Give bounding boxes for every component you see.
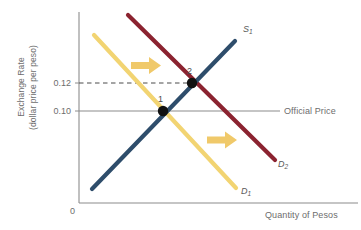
y-tick-label-010: 0.10 [43, 106, 71, 116]
equilibrium-point-2 [187, 78, 197, 88]
exchange-rate-supply-demand-chart: Exchange Rate (dollar price per peso) 0.… [0, 0, 361, 230]
y-axis-title-line2: (dollar price per peso) [28, 15, 38, 160]
supply-curve-label: S1 [243, 24, 253, 34]
y-tick-label-012: 0.12 [43, 78, 71, 88]
y-axis-subtitle: (dollar price per peso) [28, 15, 38, 160]
supply-curve-label-sub: 1 [249, 28, 253, 35]
origin-label: 0 [70, 206, 75, 216]
demand-curve-d2 [128, 15, 275, 160]
y-axis-title-line1: Exchange Rate [16, 22, 26, 152]
x-axis-title: Quantity of Pesos [265, 210, 338, 221]
demand-d2-label-sub: 2 [285, 163, 289, 170]
equilibrium-point-1 [158, 106, 168, 116]
y-axis-title: Exchange Rate [16, 22, 26, 152]
demand-d2-label-text: D [278, 159, 285, 169]
demand-shift-arrow-lower-icon [207, 132, 237, 149]
demand-d1-label-text: D [241, 186, 248, 196]
official-price-label: Official Price [284, 106, 336, 117]
equilibrium-2-label: 2 [187, 66, 192, 76]
demand-d1-curve-label: D1 [241, 186, 251, 196]
demand-d1-label-sub: 1 [248, 190, 252, 197]
equilibrium-1-label: 1 [158, 94, 163, 104]
demand-d2-curve-label: D2 [278, 159, 288, 169]
demand-shift-arrow-upper-icon [131, 57, 161, 74]
